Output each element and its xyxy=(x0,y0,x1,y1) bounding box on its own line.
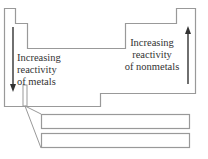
metals-label-line-2: reactivity xyxy=(17,64,61,76)
nonmetals-reactivity-label: Increasing reactivity of nonmetals xyxy=(120,37,184,73)
nonmetals-label-line-1: Increasing xyxy=(120,37,184,49)
down-arrowhead-icon xyxy=(10,84,16,92)
f-block-marker xyxy=(23,85,27,106)
nonmetals-label-line-3: of nonmetals xyxy=(120,61,184,73)
lanthanide-row xyxy=(42,115,190,129)
metals-label-line-1: Increasing xyxy=(17,52,61,64)
metals-label-line-3: of metals xyxy=(17,76,61,88)
up-arrowhead-icon xyxy=(185,26,191,34)
metals-reactivity-label: Increasing reactivity of metals xyxy=(17,52,61,88)
nonmetals-label-line-2: reactivity xyxy=(120,49,184,61)
actinide-row xyxy=(42,134,190,148)
